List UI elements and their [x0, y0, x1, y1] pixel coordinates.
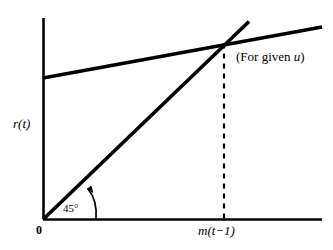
y-axis-label-text: r(t): [13, 116, 30, 131]
annotation-variable: u: [294, 49, 301, 64]
chart-figure: r(t) 0 45° m(t−1) (For given u): [0, 0, 333, 250]
origin-label: 0: [36, 224, 42, 236]
chart-plot-area: [0, 0, 333, 250]
angle-label: 45°: [63, 203, 78, 214]
annotation-text: (For given u): [236, 49, 305, 64]
annotation-for-given-u: (For given u): [236, 50, 305, 63]
x-axis-tick-label-m-t-minus-1: m(t−1): [198, 224, 235, 237]
origin-label-text: 0: [36, 223, 42, 237]
y-axis-label: r(t): [13, 117, 30, 130]
angle-label-text: 45°: [63, 202, 78, 214]
x-axis-tick-label-text: m(t−1): [198, 223, 235, 238]
